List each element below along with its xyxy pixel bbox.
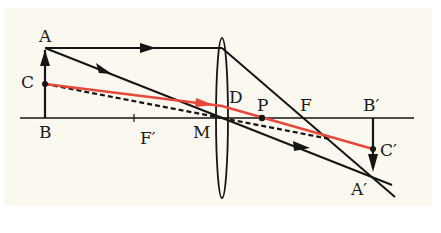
label-a-prime: A′ <box>350 179 367 199</box>
label-b: B <box>39 122 52 142</box>
central-ray-arrowhead-2 <box>293 141 310 151</box>
label-c: C <box>21 72 34 92</box>
label-f-prime: F′ <box>140 128 156 148</box>
point-p <box>259 115 265 121</box>
parallel-ray-arrowhead <box>140 43 156 53</box>
label-p: P <box>257 95 268 115</box>
lens-ray-diagram: A C B F′ M D P F B′ C′ A′ <box>0 0 441 233</box>
dashed-ray <box>45 84 222 118</box>
label-b-prime: B′ <box>363 95 379 115</box>
central-ray-arrowhead-1 <box>96 63 112 74</box>
label-c-prime: C′ <box>380 140 397 160</box>
label-m: M <box>193 122 210 142</box>
label-f: F <box>300 95 312 115</box>
label-d: D <box>229 87 243 107</box>
object-arrowhead <box>40 50 50 66</box>
image-arrowhead <box>368 154 378 172</box>
point-c <box>42 81 48 87</box>
point-c-prime <box>370 146 376 152</box>
label-a: A <box>38 26 52 46</box>
